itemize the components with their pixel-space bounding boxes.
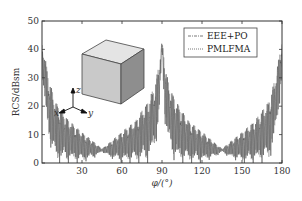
series-line-pmlfma (42, 45, 282, 160)
x-tick-label: 150 (233, 166, 250, 176)
x-tick-label: 90 (156, 166, 168, 176)
legend-label-pmlfma: PMLFMA (207, 44, 251, 54)
rcs-curves (42, 44, 282, 163)
triad-label-x: x (54, 108, 59, 118)
y-tick-label: 30 (28, 73, 40, 83)
y-tick-label: 50 (28, 16, 40, 26)
y-tick-label: 0 (33, 158, 39, 168)
x-tick-label: 180 (273, 166, 290, 176)
cube-inset (82, 40, 144, 104)
triad-label-z: z (75, 85, 81, 95)
y-tick-label: 40 (28, 44, 40, 54)
x-tick-label: 30 (76, 166, 88, 176)
legend: EEE+PO PMLFMA (184, 28, 257, 57)
y-tick-label: 10 (28, 130, 40, 140)
x-tick-label: 120 (193, 166, 210, 176)
triad-label-y: y (87, 108, 94, 118)
legend-label-eee-po: EEE+PO (207, 31, 248, 41)
y-axis-label: RCS/dBsm (11, 67, 21, 116)
rcs-chart: 01020304050 306090120150180 RCS/dBsm φ/(… (0, 0, 302, 201)
y-tick-label: 20 (28, 101, 40, 111)
x-axis-label: φ/(°) (152, 178, 173, 188)
x-tick-label: 60 (116, 166, 128, 176)
